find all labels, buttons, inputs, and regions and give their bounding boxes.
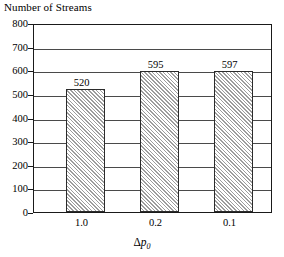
- y-tick-mark: [28, 213, 33, 214]
- y-tick-label: 0: [2, 208, 28, 219]
- x-tick-label: 1.0: [45, 217, 118, 228]
- y-axis: 800 700 600 500 400 300 200 100 0: [0, 0, 28, 257]
- x-axis-title-delta: Δ: [133, 236, 140, 248]
- bar-value-label: 597: [193, 59, 266, 70]
- y-tick-label: 600: [2, 66, 28, 77]
- x-tick-label: 0.2: [119, 217, 192, 228]
- bars-group: [34, 25, 271, 212]
- x-tick-label: 0.1: [193, 217, 266, 228]
- bar-category-3[interactable]: [214, 71, 253, 212]
- x-axis-title-subscript: 0: [147, 242, 151, 251]
- plot-area: [33, 24, 272, 213]
- bar-value-label: 595: [119, 59, 192, 70]
- bar-value-label: 520: [45, 77, 118, 88]
- bar-category-1[interactable]: [66, 89, 105, 212]
- y-tick-label: 200: [2, 161, 28, 172]
- y-tick-label: 300: [2, 137, 28, 148]
- y-tick-label: 700: [2, 42, 28, 53]
- y-tick-label: 800: [2, 19, 28, 30]
- x-axis-title: Δp0: [0, 236, 284, 253]
- y-tick-label: 100: [2, 184, 28, 195]
- bar-category-2[interactable]: [140, 71, 179, 212]
- y-tick-label: 500: [2, 90, 28, 101]
- bar-chart: Number of Streams 800 700 600 500 400 30…: [0, 0, 284, 257]
- y-tick-label: 400: [2, 113, 28, 124]
